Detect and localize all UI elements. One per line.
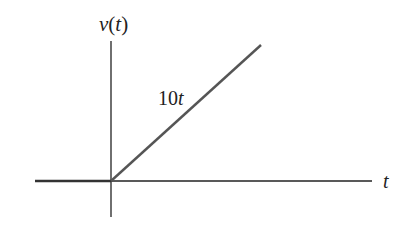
x-axis-label: t bbox=[383, 170, 389, 192]
ramp-segment-label: 10t bbox=[158, 87, 184, 109]
signal-ramp-segment bbox=[111, 45, 261, 181]
ramp-signal-diagram: v(t) 10t t bbox=[0, 0, 414, 228]
y-axis-label: v(t) bbox=[99, 12, 128, 36]
